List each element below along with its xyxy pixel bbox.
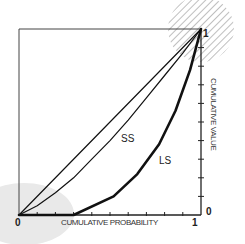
series-equality-diagonal: [19, 29, 201, 215]
y-tick-label-0: 0: [206, 206, 212, 217]
y-axis-title: CUMULATIVE VALUE: [209, 78, 218, 150]
series-lines: [19, 29, 201, 215]
series-label-ls: LS: [159, 155, 171, 166]
x-axis-title: CUMULATIVE PROBABILITY: [61, 218, 158, 227]
x-tick-label-1: 1: [192, 217, 198, 228]
x-tick-label-0: 0: [15, 217, 21, 228]
series-label-ss: SS: [121, 133, 134, 144]
y-tick-label-1: 1: [203, 28, 209, 39]
